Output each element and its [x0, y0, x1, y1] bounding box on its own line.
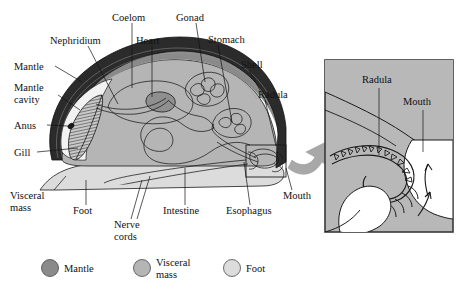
legend-swatch-mantle — [42, 260, 59, 277]
heart — [146, 92, 175, 112]
legend-label-mantle: Mantle — [64, 263, 94, 274]
label-radula: Radula — [258, 89, 288, 100]
label-intestine: Intestine — [163, 205, 199, 216]
label-visceral-mass-line1: Visceral — [10, 190, 44, 201]
label-heart: Heart — [136, 35, 159, 46]
legend-label-visceral-mass-line2: mass — [156, 269, 177, 280]
label-gill: Gill — [14, 147, 30, 158]
label-coelom: Coelom — [112, 12, 145, 23]
inset-label-radula: Radula — [362, 74, 392, 85]
label-mantle: Mantle — [14, 61, 44, 72]
label-gonad: Gonad — [176, 12, 205, 23]
label-nerve-cords-line1: Nerve — [114, 219, 140, 230]
label-mantle-cavity-line2: cavity — [14, 94, 40, 105]
label-mantle-cavity-line1: Mantle — [14, 82, 44, 93]
mollusc-anatomy-diagram: Radula Mouth Nephridium Coelom Gonad Hea… — [0, 0, 460, 295]
label-visceral-mass-line2: mass — [10, 202, 31, 213]
label-anus: Anus — [14, 120, 36, 131]
inset-label-mouth: Mouth — [403, 96, 432, 107]
label-foot: Foot — [73, 205, 92, 216]
legend-label-foot: Foot — [246, 263, 265, 274]
legend-swatch-foot — [224, 260, 241, 277]
label-nephridium: Nephridium — [50, 35, 101, 46]
legend-swatch-visceral-mass — [134, 260, 151, 277]
label-shell: Shell — [241, 59, 263, 70]
label-stomach: Stomach — [208, 34, 245, 45]
label-nerve-cords-line2: cords — [114, 231, 137, 242]
radula-inset-panel: Radula Mouth — [325, 60, 453, 234]
label-mouth: Mouth — [283, 190, 312, 201]
label-esophagus: Esophagus — [226, 205, 272, 216]
figure-canvas: Radula Mouth Nephridium Coelom Gonad Hea… — [0, 0, 460, 295]
legend-label-visceral-mass-line1: Visceral — [156, 257, 190, 268]
